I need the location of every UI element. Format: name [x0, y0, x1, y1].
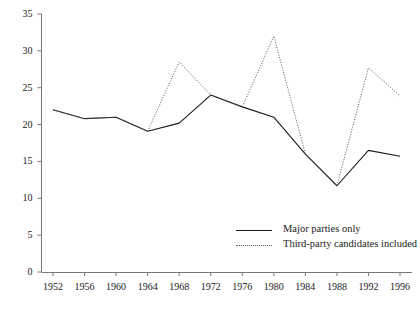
x-axis-tick-label: 1972	[201, 282, 221, 292]
data-series-layer	[53, 36, 400, 186]
line-chart-canvas	[0, 0, 420, 309]
legend-dotted-line-icon	[236, 240, 272, 250]
y-axis-tick-label: 0	[0, 267, 33, 277]
y-axis-ticks	[38, 14, 42, 272]
x-axis-tick-label: 1960	[106, 282, 126, 292]
legend-solid-line-icon	[236, 225, 272, 235]
y-axis-tick-label: 15	[0, 156, 33, 166]
x-axis-tick-label: 1984	[295, 282, 315, 292]
legend-item-major-parties-only: Major parties only	[236, 222, 417, 237]
legend-item-third-party-included: Third-party candidates included	[236, 237, 417, 252]
legend-label-major-parties-only: Major parties only	[283, 224, 361, 235]
y-axis-tick-label: 35	[0, 9, 33, 19]
x-axis-tick-label: 1976	[232, 282, 252, 292]
x-axis-tick-label: 1988	[327, 282, 347, 292]
x-axis-tick-label: 1992	[358, 282, 378, 292]
x-axis-tick-label: 1964	[138, 282, 158, 292]
x-axis-tick-label: 1968	[169, 282, 189, 292]
series-line-third-party-included	[53, 36, 400, 186]
y-axis-tick-label: 5	[0, 230, 33, 240]
x-axis-tick-label: 1956	[75, 282, 95, 292]
chart-legend: Major parties only Third-party candidate…	[236, 222, 417, 252]
y-axis-tick-label: 30	[0, 46, 33, 56]
y-axis-tick-label: 25	[0, 83, 33, 93]
series-line-major-parties-only	[53, 95, 400, 186]
legend-label-third-party-included: Third-party candidates included	[283, 239, 417, 250]
chart-figure: 05101520253035 1952195619601964196819721…	[0, 0, 420, 309]
x-axis-tick-label: 1996	[390, 282, 410, 292]
y-axis-tick-label: 10	[0, 193, 33, 203]
x-axis-tick-label: 1952	[43, 282, 63, 292]
y-axis-tick-label: 20	[0, 120, 33, 130]
x-axis-tick-label: 1980	[264, 282, 284, 292]
